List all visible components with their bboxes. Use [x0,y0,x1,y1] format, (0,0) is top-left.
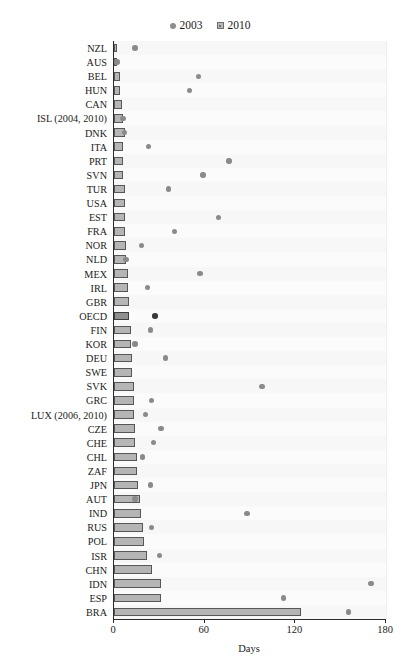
bar-2010 [114,297,129,306]
category-label: FRA [0,224,110,239]
chart-row [114,506,386,520]
chart-row [114,549,386,563]
dot-2003 [151,440,156,445]
category-label: ISR [0,549,110,564]
dot-2003 [157,553,162,558]
category-label: GBR [0,295,110,310]
chart-row [114,267,386,281]
category-label: ESP [0,591,110,606]
category-label: CHN [0,563,110,578]
chart-root: 2003 2010 NZLAUSBELHUNCANISL (2004, 2010… [0,0,420,666]
legend-label-2010: 2010 [228,20,251,32]
category-label: JPN [0,478,110,493]
gridline [386,41,387,619]
dot-2003 [368,581,373,586]
legend-label-2003: 2003 [180,20,203,32]
dot-2003 [148,327,153,332]
bar-2010 [114,579,161,588]
dot-2003 [187,88,192,93]
bar-2010 [114,410,134,419]
bar-2010 [114,142,123,151]
category-label: ZAF [0,464,110,479]
bar-2010 [114,241,126,250]
category-label: AUS [0,55,110,70]
dot-2003 [139,243,144,248]
category-label: USA [0,196,110,211]
chart-row [114,393,386,407]
bar-2010 [114,326,131,335]
chart-row [114,478,386,492]
bar-2010 [114,565,152,574]
category-label: MEX [0,267,110,282]
bar-2010 [114,171,123,180]
chart-row [114,168,386,182]
chart-row [114,97,386,111]
dot-2003 [216,215,221,220]
bar-2010 [114,382,134,391]
dot-2003 [123,257,128,262]
chart-row [114,534,386,548]
dot-2003 [143,412,148,417]
x-tick [113,619,114,623]
category-label: ISL (2004, 2010) [0,111,110,126]
chart-row [114,379,386,393]
category-label: OECD [0,309,110,324]
category-label: ITA [0,140,110,155]
bar-2010 [114,523,143,532]
category-label: EST [0,210,110,225]
dot-2003 [172,229,177,234]
x-tick-label: 120 [286,624,302,635]
chart-row [114,111,386,125]
bar-2010 [114,594,161,603]
dot-2003 [122,130,127,135]
chart-row [114,252,386,266]
chart-row [114,281,386,295]
bar-2010 [114,157,123,166]
category-label: NLD [0,252,110,267]
chart-row [114,224,386,238]
category-label: NZL [0,41,110,56]
circle-marker-icon [170,23,176,29]
category-label: LUX (2006, 2010) [0,408,110,423]
bar-2010 [114,551,147,560]
chart-row [114,337,386,351]
category-label: RUS [0,520,110,535]
dot-2003 [244,511,249,516]
bar-2010 [114,537,144,546]
chart-row [114,492,386,506]
category-label: HUN [0,83,110,98]
chart-row [114,238,386,252]
category-label: SVN [0,168,110,183]
dot-2003 [140,454,145,459]
bar-2010 [114,269,128,278]
category-label: SWE [0,365,110,380]
chart-row [114,408,386,422]
chart-row [114,464,386,478]
square-marker-icon [217,22,224,29]
dot-2003 [158,426,163,431]
category-label: POL [0,534,110,549]
bar-2010 [114,283,128,292]
bar-2010 [114,44,117,53]
x-tick-label: 180 [377,624,393,635]
dot-2003 [200,172,205,177]
x-tick [385,619,386,623]
chart-row [114,140,386,154]
category-label: DEU [0,351,110,366]
dot-2003 [196,74,201,79]
dot-2003 [132,496,137,501]
chart-row [114,309,386,323]
category-label: IDN [0,577,110,592]
bar-2010 [114,467,137,476]
dot-2003 [120,116,125,121]
category-label: IRL [0,281,110,296]
category-label: GRC [0,393,110,408]
chart-row [114,210,386,224]
dot-2003 [132,45,137,50]
legend-entry-2010: 2010 [217,20,251,32]
category-label: DNK [0,126,110,141]
bar-2010 [114,509,141,518]
chart-row [114,154,386,168]
x-tick-label: 0 [110,624,115,635]
category-label: FIN [0,323,110,338]
